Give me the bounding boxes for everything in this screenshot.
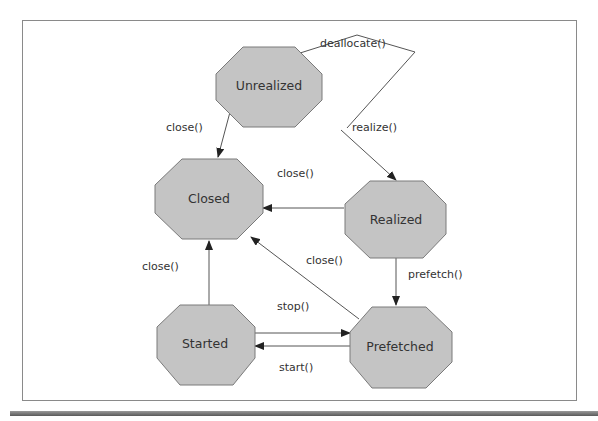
edge-unrealized-realized — [341, 130, 396, 180]
state-label: Closed — [188, 191, 230, 206]
state-started[interactable]: Started — [157, 305, 255, 385]
state-label: Realized — [370, 212, 423, 227]
label-prefetched-close: close() — [306, 254, 343, 267]
state-realized[interactable]: Realized — [345, 181, 446, 258]
label-realized-close: close() — [277, 167, 314, 180]
label-unrealized-close: close() — [166, 121, 203, 134]
state-unrealized[interactable]: Unrealized — [216, 47, 322, 127]
state-label: Started — [182, 336, 228, 351]
state-label: Unrealized — [236, 78, 302, 93]
state-label: Prefetched — [366, 339, 433, 354]
state-closed[interactable]: Closed — [155, 159, 263, 239]
label-stop: stop() — [277, 300, 309, 313]
label-start: start() — [279, 361, 313, 374]
label-deallocate: deallocate() — [320, 37, 386, 50]
label-started-close: close() — [142, 260, 179, 273]
state-diagram: Unrealized Closed Realized Started Prefe… — [0, 0, 598, 421]
state-prefetched[interactable]: Prefetched — [350, 307, 452, 388]
label-realize: realize() — [352, 121, 397, 134]
label-prefetch: prefetch() — [408, 268, 463, 281]
